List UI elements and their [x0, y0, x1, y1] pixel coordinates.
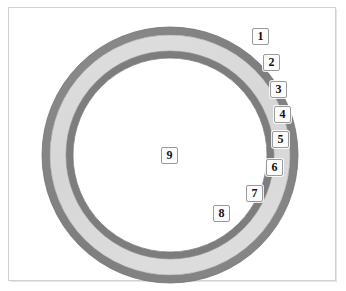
callout-7: 7: [246, 185, 263, 202]
callout-2-label: 2: [269, 55, 275, 69]
callout-6: 6: [266, 159, 283, 176]
callout-8: 8: [213, 205, 230, 222]
callout-9-label: 9: [167, 148, 173, 162]
callout-2: 2: [263, 54, 280, 71]
callout-3: 3: [270, 81, 287, 98]
callout-4: 4: [274, 106, 291, 123]
callout-8-label: 8: [219, 206, 225, 220]
callout-4-label: 4: [280, 107, 286, 121]
callout-1-label: 1: [258, 29, 264, 43]
callout-1: 1: [252, 28, 269, 45]
callout-5: 5: [272, 131, 289, 148]
callout-9: 9: [161, 147, 178, 164]
callout-7-label: 7: [252, 186, 258, 200]
callout-6-label: 6: [272, 160, 278, 174]
callout-5-label: 5: [278, 132, 284, 146]
concentric-ring-diagram: [0, 0, 346, 291]
figure-page: 1 2 3 4 5 6 7 8 9: [0, 0, 346, 291]
callout-3-label: 3: [276, 82, 282, 96]
